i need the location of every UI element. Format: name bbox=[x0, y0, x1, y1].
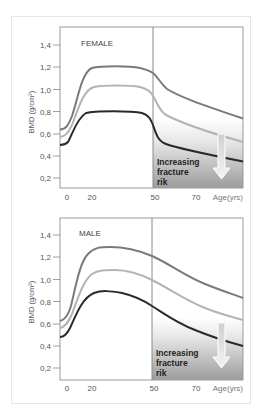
x-tick-label: 20 bbox=[88, 193, 97, 202]
y-tick-label: 0,4 bbox=[40, 342, 52, 351]
y-tick-label: 0,4 bbox=[40, 152, 52, 161]
y-axis-title: BMD (g/cm²) bbox=[27, 90, 36, 133]
y-tick-label: 0,8 bbox=[40, 108, 52, 117]
risk-label-line: fracture bbox=[157, 167, 189, 177]
risk-label-line: Increasing bbox=[157, 157, 200, 167]
risk-label-line: fracture bbox=[156, 358, 188, 368]
y-tick-label: 1,2 bbox=[40, 63, 52, 72]
y-tick-label: 1,4 bbox=[40, 231, 52, 240]
y-axis bbox=[53, 235, 60, 368]
x-tick-label: 0 bbox=[65, 193, 70, 202]
y-tick-label: 0,6 bbox=[40, 320, 52, 329]
y-tick-label: 1,2 bbox=[40, 253, 52, 262]
x-tick-label: 70 bbox=[192, 384, 201, 393]
chart-title: FEMALE bbox=[81, 39, 113, 48]
x-axis-title: Age(yrs) bbox=[213, 384, 244, 393]
y-tick-label: 0,6 bbox=[40, 130, 52, 139]
bmd-figure: 1,4 1,2 1,0 0,8 0,6 0,4 0,2 BMD (g/cm²) … bbox=[0, 0, 261, 414]
x-tick-label: 0 bbox=[65, 384, 70, 393]
risk-label-line: rik bbox=[156, 368, 167, 378]
y-tick-label: 0,2 bbox=[40, 174, 52, 183]
chart-title: MALE bbox=[79, 229, 101, 238]
x-tick-label: 50 bbox=[150, 384, 159, 393]
x-tick-label: 20 bbox=[88, 384, 97, 393]
male-chart: 1,4 1,2 1,0 0,8 0,6 0,4 0,2 BMD (g/cm²) … bbox=[27, 218, 243, 393]
x-tick-label: 70 bbox=[192, 193, 201, 202]
middle-bmd-line bbox=[60, 86, 243, 143]
y-axis bbox=[53, 45, 60, 178]
y-tick-label: 1,4 bbox=[40, 41, 52, 50]
risk-label-line: Increasing bbox=[156, 348, 199, 358]
x-tick-label: 50 bbox=[151, 193, 160, 202]
y-tick-label: 0,8 bbox=[40, 298, 52, 307]
y-axis-title: BMD (g/cm²) bbox=[27, 280, 36, 323]
risk-label-line: rik bbox=[157, 177, 168, 187]
female-chart: 1,4 1,2 1,0 0,8 0,6 0,4 0,2 BMD (g/cm²) … bbox=[27, 27, 243, 202]
y-tick-label: 0,2 bbox=[40, 364, 52, 373]
y-tick-label: 1,0 bbox=[40, 276, 52, 285]
y-tick-label: 1,0 bbox=[40, 86, 52, 95]
x-axis-title: Age(yrs) bbox=[213, 193, 244, 202]
